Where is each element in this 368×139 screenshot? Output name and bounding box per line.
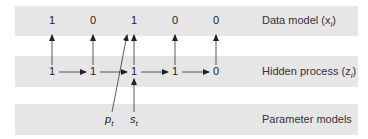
parameter-p-label: pt: [105, 113, 113, 128]
data-node-1: 1: [46, 14, 58, 26]
hidden-node-3: 1: [128, 65, 140, 77]
hidden-process-label: Hidden process (zi): [262, 65, 356, 80]
hidden-node-5: 0: [210, 65, 222, 77]
hidden-node-2: 1: [87, 65, 99, 77]
data-node-2: 0: [87, 14, 99, 26]
data-model-label: Data model (xi): [262, 14, 336, 29]
hidden-node-1: 1: [46, 65, 58, 77]
parameter-models-label: Parameter models: [262, 113, 352, 125]
emission-arrows: [52, 35, 216, 66]
hidden-node-4: 1: [169, 65, 181, 77]
data-node-4: 0: [169, 14, 181, 26]
data-node-3: 1: [128, 14, 140, 26]
data-node-5: 0: [210, 14, 222, 26]
parameter-s-label: st: [130, 113, 138, 128]
